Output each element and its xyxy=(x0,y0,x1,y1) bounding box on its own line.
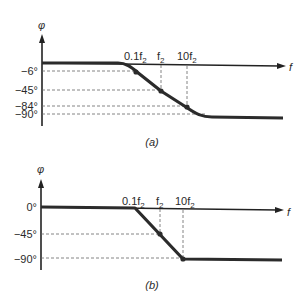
y-axis-label-b: φ xyxy=(37,163,44,175)
caption-b: (b) xyxy=(145,279,159,291)
y-axis-arrow-b xyxy=(38,179,44,188)
x-mark-a-0: 0.1f2 xyxy=(124,50,147,65)
y-tick-a-0: −6° xyxy=(21,65,38,77)
x-axis-label-a: f xyxy=(289,61,293,73)
y-axis-arrow-a xyxy=(39,34,45,43)
y-tick-a-1: −45° xyxy=(15,84,38,96)
x-mark-a-1: f2 xyxy=(157,50,165,65)
point-b-1 xyxy=(180,256,185,261)
point-a-2 xyxy=(184,104,189,109)
point-a-1 xyxy=(158,88,163,93)
point-b-0 xyxy=(157,231,162,236)
y-tick-b-1: −45° xyxy=(14,228,37,240)
x-axis-arrow-a xyxy=(277,63,286,69)
x-axis-label-b: f xyxy=(287,206,291,218)
caption-a: (a) xyxy=(145,136,159,148)
y-tick-b-2: −90° xyxy=(14,253,37,265)
panel-b: φ f 0° −45° −90° 0.1f2 f2 10f2 (b) xyxy=(14,163,291,291)
x-mark-a-2: 10f2 xyxy=(177,50,197,65)
x-mark-b-2: 10f2 xyxy=(175,195,195,210)
y-axis-label-a: φ xyxy=(38,19,45,31)
x-axis-arrow-b xyxy=(275,207,284,213)
y-tick-b-0: 0° xyxy=(26,201,37,213)
panel-a: φ f −6° −45° −84° −90° 0.1f2 f2 10f2 (a) xyxy=(15,19,293,148)
y-tick-a-3: −90° xyxy=(15,108,38,120)
phase-plot-figure: φ f −6° −45° −84° −90° 0.1f2 f2 10f2 (a) xyxy=(0,0,306,303)
point-a-0 xyxy=(133,69,138,74)
